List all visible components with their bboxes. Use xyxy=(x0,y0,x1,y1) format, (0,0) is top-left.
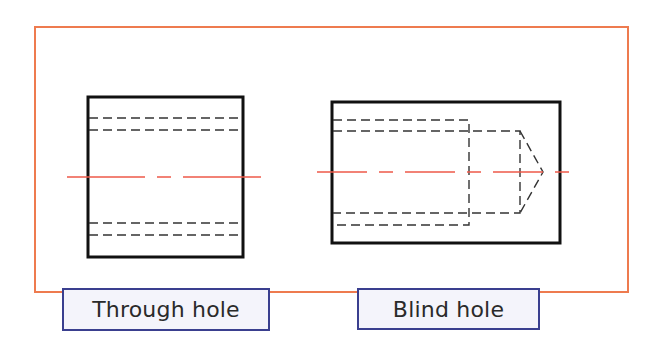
through-hole-label-text: Through hole xyxy=(92,297,240,322)
blind-hole-label: Blind hole xyxy=(357,288,540,330)
blind-hole-label-text: Blind hole xyxy=(393,297,504,322)
through-hole-view xyxy=(67,97,262,257)
blind-hole-view xyxy=(317,102,580,243)
through-hole-label: Through hole xyxy=(62,288,270,331)
